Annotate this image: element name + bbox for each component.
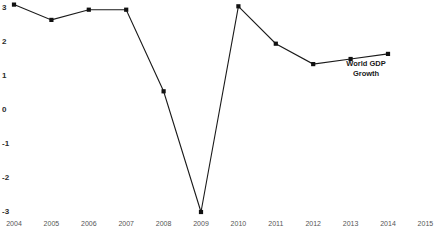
series-line-world-gdp-growth (14, 5, 388, 212)
data-point-marker (236, 4, 240, 8)
data-point-marker (49, 18, 53, 22)
data-point-marker (311, 62, 315, 66)
data-point-marker (12, 3, 16, 7)
data-point-marker (274, 42, 278, 46)
data-point-marker (87, 8, 91, 12)
data-point-marker (199, 210, 203, 214)
series-markers-world-gdp-growth (12, 3, 390, 215)
data-point-marker (162, 89, 166, 93)
plot-area (0, 0, 444, 232)
chart-container: 3210-1-2-3 20042005200620072008200920102… (0, 0, 444, 232)
data-point-marker (386, 52, 390, 56)
data-point-marker (124, 8, 128, 12)
series-annotation-world-gdp-growth: World GDP Growth (340, 59, 392, 79)
